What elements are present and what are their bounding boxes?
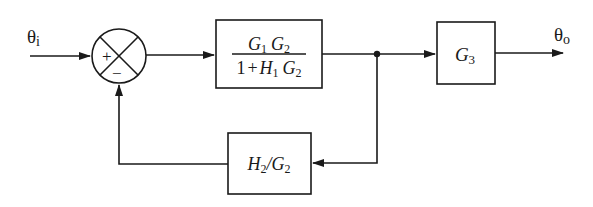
block-diagram: θi + − G1G2 1+H1G2 G3 θo H2/G2 xyxy=(0,0,593,207)
input-label: θi xyxy=(27,26,40,49)
feedback-label: H2/G2 xyxy=(246,154,290,176)
output-label: θo xyxy=(554,24,570,47)
output-signal: θo xyxy=(495,24,570,53)
input-signal: θi xyxy=(27,26,90,56)
feedback-block: H2/G2 xyxy=(228,133,311,194)
summing-junction: + − xyxy=(92,29,146,83)
feedback-return-arrow xyxy=(119,85,228,164)
minus-sign: − xyxy=(112,64,122,83)
plus-sign: + xyxy=(102,47,112,66)
forward-block-1: G1G2 1+H1G2 xyxy=(216,20,322,88)
forward-block-2: G3 xyxy=(437,22,495,84)
